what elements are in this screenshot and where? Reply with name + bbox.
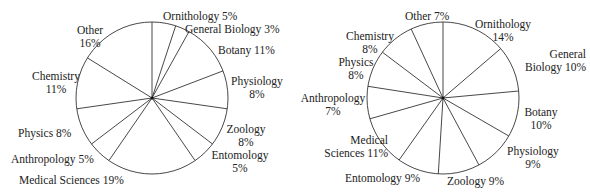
label-left-other: Other16%: [72, 24, 108, 50]
label-right-botany: Botany10%: [518, 106, 564, 132]
label-right-physics: Physics8%: [335, 56, 377, 82]
label-right-other: Other 7%: [405, 10, 449, 23]
label-left-physiology: Physiology8%: [228, 75, 286, 101]
label-right-physiology: Physiology9%: [502, 145, 564, 171]
label-left-physics: Physics 8%: [18, 127, 71, 140]
label-right-ornithology: Ornithology14%: [470, 18, 536, 44]
label-right-chemistry: Chemistry8%: [344, 30, 396, 56]
label-left-entomology: Entomology5%: [210, 149, 270, 175]
label-left-general-biology: General Biology 3%: [185, 23, 280, 36]
label-left-zoology: Zoology8%: [225, 123, 267, 149]
label-right-general-biology: GeneralBiology 10%: [516, 48, 586, 74]
label-right-entomology: Entomology 9%: [345, 172, 420, 185]
pie-center: [442, 97, 445, 100]
label-left-botany: Botany 11%: [218, 44, 275, 57]
label-left-chemistry: Chemistry11%: [30, 70, 82, 96]
label-right-anthropology: Anthropology7%: [298, 92, 368, 118]
label-left-ornithology: Ornithology 5%: [163, 10, 237, 23]
label-right-zoology: Zoology 9%: [447, 175, 504, 188]
label-left-anthropology: Anthropology 5%: [11, 153, 94, 166]
label-left-medical-sciences: Medical Sciences 19%: [19, 174, 124, 187]
label-right-medical-sciences: MedicalSciences 11%: [318, 134, 388, 160]
pie-center: [151, 97, 154, 100]
